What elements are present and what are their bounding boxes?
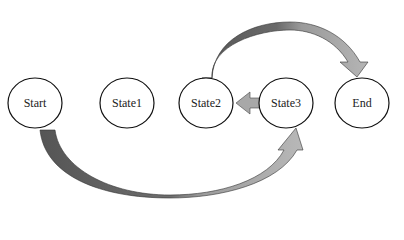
node-start-label: Start [5,96,65,111]
node-state3-label: State3 [256,96,316,111]
edge-start-to-state3 [40,128,303,198]
node-state2-label: State2 [176,96,236,111]
edge-state2-to-end [202,22,368,78]
node-state1-label: State1 [97,96,157,111]
node-end-label: End [332,96,392,111]
